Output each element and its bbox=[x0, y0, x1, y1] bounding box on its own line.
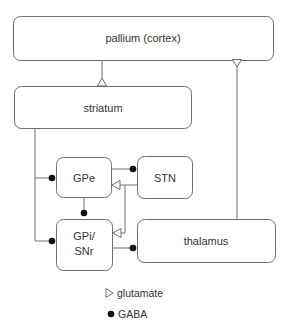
glutamate-triangle-icon bbox=[112, 181, 120, 190]
stn-label: STN bbox=[154, 172, 176, 184]
node-striatum: striatum bbox=[15, 87, 192, 129]
legend-glutamate-triangle-icon bbox=[106, 289, 113, 298]
striatum-label: striatum bbox=[83, 102, 122, 114]
gpi-label-line1: GPi/ bbox=[73, 230, 95, 242]
glutamate-triangle-icon bbox=[113, 229, 121, 238]
legend-gaba-label: GABA bbox=[118, 308, 147, 320]
gpi-label-line2: SNr bbox=[75, 245, 94, 257]
gaba-dot-icon bbox=[49, 238, 56, 245]
gaba-dot-icon bbox=[49, 175, 56, 182]
edge-striatum-gpi bbox=[35, 128, 52, 241]
node-stn: STN bbox=[138, 157, 193, 199]
thalamus-label: thalamus bbox=[184, 235, 229, 247]
basal-ganglia-diagram: pallium (cortex) striatum GPe STN GPi/ S… bbox=[0, 0, 288, 328]
node-gpe: GPe bbox=[57, 158, 112, 198]
legend-gaba-dot-icon bbox=[108, 311, 115, 318]
legend: glutamate GABA bbox=[106, 287, 163, 320]
gaba-dot-icon bbox=[130, 245, 137, 252]
node-pallium: pallium (cortex) bbox=[14, 17, 274, 61]
legend-glutamate-label: glutamate bbox=[117, 287, 163, 299]
gpe-label: GPe bbox=[73, 172, 95, 184]
pallium-label: pallium (cortex) bbox=[105, 32, 180, 44]
edge-stn-gpi bbox=[120, 185, 125, 233]
node-thalamus: thalamus bbox=[138, 220, 276, 263]
glutamate-triangle-icon bbox=[98, 78, 107, 86]
node-gpi-snr: GPi/ SNr bbox=[57, 220, 113, 271]
gaba-dot-icon bbox=[130, 166, 137, 173]
glutamate-triangle-icon bbox=[233, 60, 242, 68]
gaba-dot-icon bbox=[81, 210, 88, 217]
